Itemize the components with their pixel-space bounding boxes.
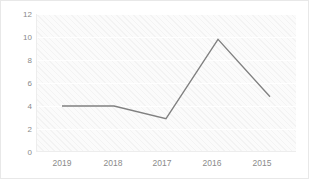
- y-tick-label: 8: [6, 56, 32, 65]
- x-tick-label-2018: 2018: [85, 158, 141, 168]
- y-tick-label: 2: [6, 125, 32, 134]
- y-tick-label: 10: [6, 33, 32, 42]
- x-tick-label-2017: 2017: [134, 158, 190, 168]
- data-series-line: [36, 14, 296, 152]
- x-tick-label-2019: 2019: [34, 158, 90, 168]
- y-tick-label: 12: [6, 10, 32, 19]
- y-axis: 12 10 8 6 4 2 0: [0, 0, 32, 179]
- x-tick-label-2016: 2016: [184, 158, 240, 168]
- line-chart: 12 10 8 6 4 2 0 2019 2018 2017 2016 2015: [0, 0, 309, 179]
- y-tick-label: 6: [6, 79, 32, 88]
- y-tick-label: 0: [6, 148, 32, 157]
- x-tick-label-2015: 2015: [234, 158, 290, 168]
- y-tick-label: 4: [6, 102, 32, 111]
